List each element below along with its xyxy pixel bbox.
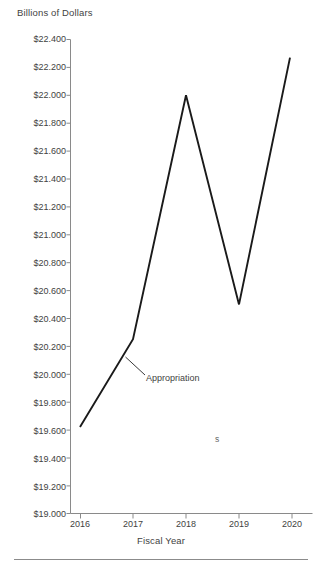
y-tick-5: $21.400 [8,175,66,184]
y-tick-label: $19.400 [8,455,66,464]
y-tick-10: $20.400 [8,315,66,324]
y-tick-label: $19.800 [8,399,66,408]
y-tick-6: $21.200 [8,203,66,212]
y-tick-label: $21.200 [8,203,66,212]
stray-text-mark: s [215,434,219,444]
y-tick-marks [67,40,71,514]
footer-divider [14,559,308,560]
y-tick-label: $20.600 [8,287,66,296]
x-tick-label-2020: 2020 [269,519,315,529]
y-tick-1: $22.200 [8,63,66,72]
y-tick-2: $22.000 [8,91,66,100]
y-tick-7: $21.000 [8,231,66,240]
y-tick-3: $21.800 [8,119,66,128]
series-annotation-appropriation: Appropriation [146,373,200,383]
y-tick-label: $21.600 [8,147,66,156]
y-tick-label: $21.400 [8,175,66,184]
y-tick-label: $19.200 [8,483,66,492]
chart-figure: Billions of Dollars [0,0,322,569]
y-tick-label: $22.400 [8,35,66,44]
y-tick-label: $20.800 [8,259,66,268]
x-tick-marks [81,514,293,519]
x-tick-label-2016: 2016 [57,519,103,529]
y-tick-label: $19.600 [8,427,66,436]
y-tick-0: $22.400 [8,35,66,44]
y-tick-label: $19.000 [8,510,66,519]
y-tick-16: $19.200 [8,483,66,492]
y-tick-label: $20.000 [8,371,66,380]
y-tick-15: $19.400 [8,455,66,464]
y-tick-4: $21.600 [8,147,66,156]
y-tick-11: $20.200 [8,343,66,352]
annotation-leader-line [126,357,146,375]
x-tick-label-2018: 2018 [163,519,209,529]
x-axis-title: Fiscal Year [0,535,322,546]
y-tick-12: $20.000 [8,371,66,380]
y-tick-label: $20.400 [8,315,66,324]
x-tick-label-2019: 2019 [216,519,262,529]
series-line-appropriation [80,58,290,428]
y-tick-label: $22.200 [8,63,66,72]
y-tick-label: $21.800 [8,119,66,128]
y-tick-14: $19.600 [8,427,66,436]
y-tick-9: $20.600 [8,287,66,296]
y-tick-label: $21.000 [8,231,66,240]
y-tick-13: $19.800 [8,399,66,408]
y-tick-8: $20.800 [8,259,66,268]
y-tick-label: $22.000 [8,91,66,100]
y-tick-17: $19.000 [8,510,66,519]
x-tick-label-2017: 2017 [110,519,156,529]
y-tick-label: $20.200 [8,343,66,352]
